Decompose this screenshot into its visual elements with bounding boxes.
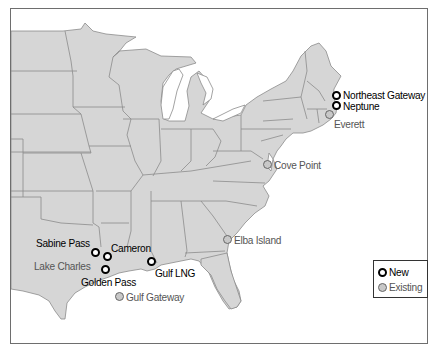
marker-golden-pass[interactable]	[101, 265, 110, 274]
label-lake-charles: Lake Charles	[34, 260, 90, 272]
map-legend: New Existing	[373, 260, 428, 298]
marker-sabine-pass[interactable]	[91, 248, 100, 257]
legend-new-label: New	[389, 266, 408, 278]
label-gulf-lng: Gulf LNG	[155, 267, 195, 279]
florida	[201, 253, 241, 309]
marker-gulf-gateway[interactable]	[115, 292, 124, 301]
label-gulf-gateway: Gulf Gateway	[126, 291, 184, 303]
marker-gulf-lng[interactable]	[147, 257, 156, 266]
legend-existing-label: Existing	[389, 281, 422, 293]
map-frame	[10, 8, 428, 344]
legend-new-icon	[378, 268, 387, 277]
marker-neptune[interactable]	[332, 101, 341, 110]
label-neptune: Neptune	[343, 100, 379, 112]
marker-everett[interactable]	[325, 110, 334, 119]
label-cameron: Cameron	[111, 242, 151, 254]
legend-row-existing: Existing	[378, 281, 427, 293]
marker-cove-point[interactable]	[263, 160, 272, 169]
marker-northeast-gateway[interactable]	[332, 91, 341, 100]
legend-row-new: New	[378, 266, 411, 278]
label-golden-pass: Golden Pass	[81, 276, 136, 288]
marker-elba-island[interactable]	[223, 235, 232, 244]
label-sabine-pass: Sabine Pass	[36, 237, 90, 249]
label-elba-island: Elba Island	[234, 234, 281, 246]
label-everett: Everett	[334, 118, 364, 130]
us-states-map	[11, 9, 427, 343]
legend-existing-icon	[378, 283, 387, 292]
label-cove-point: Cove Point	[274, 159, 321, 171]
